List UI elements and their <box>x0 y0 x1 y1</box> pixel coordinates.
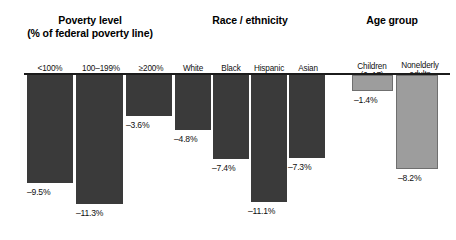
group-title-poverty-level: Poverty level (% of federal poverty line… <box>2 14 178 39</box>
bar-poverty-200-plus[interactable] <box>126 75 172 116</box>
group-title-poverty-line2: (% of federal poverty line) <box>2 27 178 40</box>
bar-value-race-asian: –7.3% <box>288 162 311 172</box>
plot-area: –9.5% –11.3% –3.6% –4.8% –7.4% –11.1% –7… <box>0 75 456 235</box>
bar-poverty-under-100[interactable] <box>27 75 73 183</box>
bar-value-race-black: –7.4% <box>212 163 235 173</box>
bar-age-children[interactable] <box>352 75 393 91</box>
category-label-race-hispanic: Hispanic <box>247 64 291 73</box>
group-title-poverty-line1: Poverty level <box>58 14 122 26</box>
bar-value-age-children: –1.4% <box>354 95 377 105</box>
bar-value-race-white: –4.8% <box>174 134 197 144</box>
category-label-age-children-line1: Children <box>357 62 386 71</box>
category-label-race-black: Black <box>211 64 251 73</box>
bar-value-poverty-under-100: –9.5% <box>27 187 50 197</box>
bar-value-race-hispanic: –11.1% <box>248 206 275 216</box>
bar-race-black[interactable] <box>213 75 249 159</box>
group-title-age-group: Age group <box>330 14 454 27</box>
group-title-race-line1: Race / ethnicity <box>212 14 287 26</box>
category-label-poverty-100-199: 100–199% <box>74 64 128 73</box>
group-title-age-line1: Age group <box>366 14 418 26</box>
category-label-poverty-200-plus: ≥200% <box>128 64 174 73</box>
bar-age-nonelderly-adults[interactable] <box>396 75 438 169</box>
grouped-bar-chart: Poverty level (% of federal poverty line… <box>0 0 456 240</box>
bar-value-age-nonelderly-adults: –8.2% <box>398 173 421 183</box>
bar-value-poverty-100-199: –11.3% <box>76 208 103 218</box>
category-label-poverty-under-100: <100% <box>26 64 74 73</box>
bar-value-poverty-200-plus: –3.6% <box>126 120 149 130</box>
bar-race-white[interactable] <box>175 75 211 130</box>
group-title-race-ethnicity: Race / ethnicity <box>176 14 324 27</box>
bar-race-hispanic[interactable] <box>251 75 287 202</box>
bar-race-asian[interactable] <box>289 75 325 158</box>
bar-poverty-100-199[interactable] <box>76 75 123 204</box>
category-label-race-white: White <box>173 64 213 73</box>
category-label-age-adults-line1: Nonelderly <box>401 61 439 70</box>
category-label-race-asian: Asian <box>288 64 328 73</box>
